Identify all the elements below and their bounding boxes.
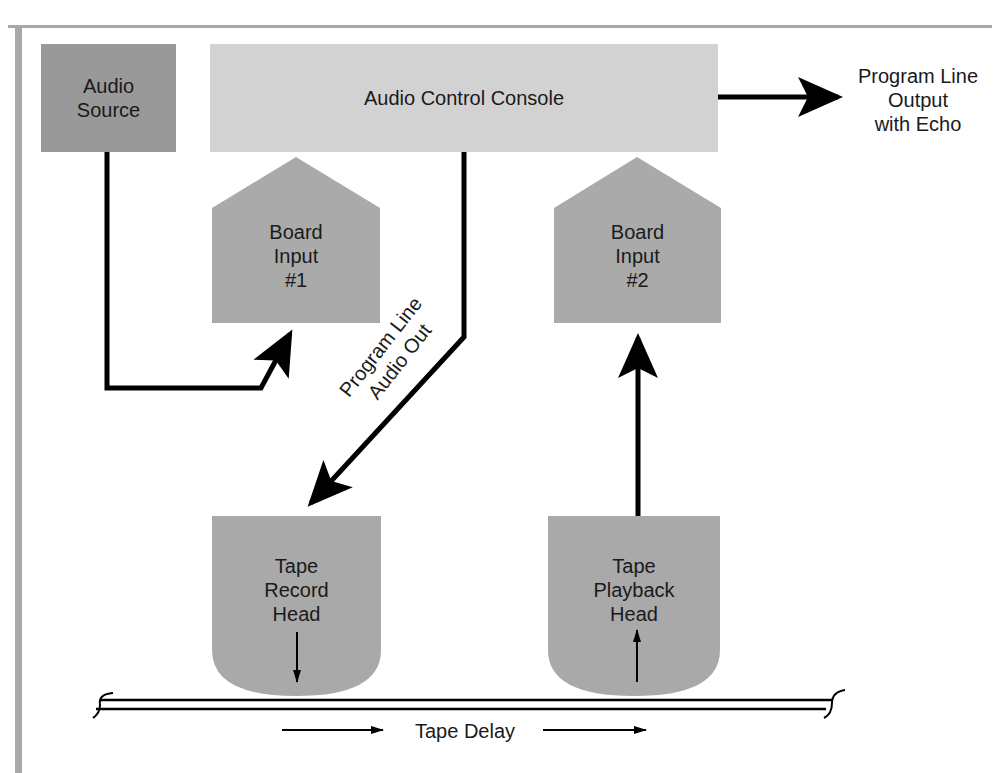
tape-playback-head-line2: Playback <box>548 578 720 602</box>
board-input-2-line1: Board <box>554 220 721 244</box>
board-input-2-label: Board Input #2 <box>554 220 721 292</box>
tape-record-head-line1: Tape <box>212 554 381 578</box>
board-input-1-label: Board Input #1 <box>212 220 380 292</box>
board-input-2-line3: #2 <box>554 268 721 292</box>
board-input-2-line2: Input <box>554 244 721 268</box>
diagram-canvas <box>0 0 1007 773</box>
tape-right-curl <box>824 690 845 718</box>
tape-record-head-line2: Record <box>212 578 381 602</box>
board-input-1-line2: Input <box>212 244 380 268</box>
tape-record-head-line3: Head <box>212 602 381 626</box>
tape-left-curl <box>93 693 113 718</box>
tape-delay-label: Tape Delay <box>400 720 530 743</box>
board-input-1-line3: #1 <box>212 268 380 292</box>
board-input-1-line1: Board <box>212 220 380 244</box>
tape-playback-head-line3: Head <box>548 602 720 626</box>
tape-playback-head-line1: Tape <box>548 554 720 578</box>
tape-record-head-label: Tape Record Head <box>212 554 381 626</box>
tape-playback-head-label: Tape Playback Head <box>548 554 720 626</box>
